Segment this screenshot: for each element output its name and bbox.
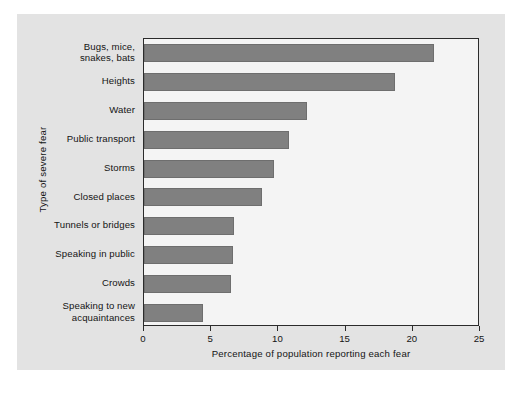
bar xyxy=(144,304,203,322)
y-axis-tick-label: Speaking in public xyxy=(37,248,135,260)
y-axis-tick-label-line: Tunnels or bridges xyxy=(37,219,135,231)
bar-fill xyxy=(144,246,233,264)
x-axis-tick-mark xyxy=(479,326,480,331)
y-axis-tick-label-line: Storms xyxy=(37,162,135,174)
bar-fill xyxy=(144,188,262,206)
x-axis-tick-mark xyxy=(210,326,211,331)
y-axis-tick-label-line: Closed places xyxy=(37,191,135,203)
y-axis-tick-label-line: Crowds xyxy=(37,277,135,289)
x-axis-tick-label: 15 xyxy=(325,333,365,344)
bar xyxy=(144,160,274,178)
y-axis-tick-label: Closed places xyxy=(37,191,135,203)
bar xyxy=(144,217,234,235)
y-axis-tick-label: Crowds xyxy=(37,277,135,289)
y-axis-tick-label: Bugs, mice,snakes, bats xyxy=(37,41,135,64)
y-axis-tick-label-line: Public transport xyxy=(37,133,135,145)
y-axis-tick-label: Speaking to newacquaintances xyxy=(37,300,135,323)
bar-fill xyxy=(144,44,434,62)
y-axis-tick-label-line: acquaintances xyxy=(37,312,135,324)
bar xyxy=(144,246,233,264)
bar xyxy=(144,73,395,91)
y-axis-tick-label: Tunnels or bridges xyxy=(37,219,135,231)
y-axis-tick-label: Heights xyxy=(37,75,135,87)
x-axis-tick-label: 0 xyxy=(123,333,163,344)
bar-fill xyxy=(144,131,289,149)
bars-layer xyxy=(144,39,478,325)
chart-figure: Type of severe fear Bugs, mice,snakes, b… xyxy=(17,14,505,370)
x-axis-tick-label: 10 xyxy=(257,333,297,344)
y-axis-tick-label-line: Speaking in public xyxy=(37,248,135,260)
y-axis-tick-label: Storms xyxy=(37,162,135,174)
y-axis-tick-label-line: snakes, bats xyxy=(37,52,135,64)
bar-fill xyxy=(144,73,395,91)
x-axis-tick-label: 25 xyxy=(459,333,499,344)
bar-fill xyxy=(144,102,307,120)
bar xyxy=(144,188,262,206)
x-axis-tick-mark xyxy=(143,326,144,331)
plot-area xyxy=(143,38,479,326)
bar xyxy=(144,44,434,62)
y-axis-tick-label-line: Bugs, mice, xyxy=(37,41,135,53)
x-axis-title: Percentage of population reporting each … xyxy=(143,348,479,359)
bar xyxy=(144,275,231,293)
bar-fill xyxy=(144,160,274,178)
x-axis-tick-mark xyxy=(277,326,278,331)
y-axis-tick-label: Public transport xyxy=(37,133,135,145)
x-axis-tick-mark xyxy=(412,326,413,331)
bar-fill xyxy=(144,304,203,322)
y-axis-tick-labels: Bugs, mice,snakes, batsHeightsWaterPubli… xyxy=(41,38,139,326)
bar xyxy=(144,131,289,149)
x-axis-tick-mark xyxy=(345,326,346,331)
x-axis-tick-label: 20 xyxy=(392,333,432,344)
bar-fill xyxy=(144,275,231,293)
y-axis-tick-label-line: Water xyxy=(37,104,135,116)
bar xyxy=(144,102,307,120)
x-axis-tick-label: 5 xyxy=(190,333,230,344)
y-axis-tick-label: Water xyxy=(37,104,135,116)
bar-fill xyxy=(144,217,234,235)
y-axis-tick-label-line: Speaking to new xyxy=(37,300,135,312)
x-axis-ticks: 0510152025 xyxy=(143,326,479,348)
y-axis-tick-label-line: Heights xyxy=(37,75,135,87)
